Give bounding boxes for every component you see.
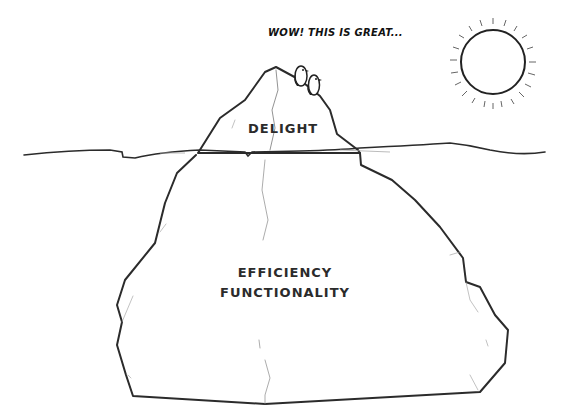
functionality-label: FUNCTIONALITY	[210, 283, 360, 303]
penguin-icon	[307, 75, 322, 95]
penguin-icon	[294, 66, 309, 86]
delight-label: DELIGHT	[248, 121, 318, 136]
sun-icon	[450, 18, 536, 109]
iceberg-tip	[198, 67, 360, 153]
efficiency-label: EFFICIENCY	[210, 263, 360, 283]
speech-bubble-text: WOW! THIS IS GREAT...	[268, 27, 403, 38]
iceberg-diagram	[0, 0, 569, 419]
below-water-labels: EFFICIENCY FUNCTIONALITY	[210, 263, 360, 303]
